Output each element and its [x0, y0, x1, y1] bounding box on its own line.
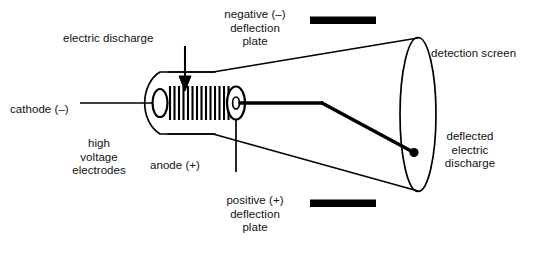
diagram-canvas: electric discharge negative (–) deflecti… — [0, 0, 548, 254]
negative-deflection-plate-bar — [310, 17, 376, 25]
beam-impact-spot — [409, 148, 418, 157]
label-electric-discharge: electric discharge — [63, 32, 153, 46]
electric-discharge-arrow — [179, 46, 191, 91]
cathode-electrode — [153, 89, 168, 117]
electron-beam-path — [240, 103, 413, 152]
discharge-stripes — [170, 86, 229, 120]
label-deflected-electric-discharge: deflected electric discharge — [428, 130, 512, 171]
cone-bottom-wall — [168, 134, 418, 191]
positive-deflection-plate-bar — [310, 200, 376, 208]
label-positive-deflection-plate: positive (+) deflection plate — [203, 194, 307, 235]
label-high-voltage-electrodes: high voltage electrodes — [49, 137, 149, 178]
label-anode: anode (+) — [150, 159, 200, 173]
label-detection-screen: detection screen — [431, 47, 516, 61]
label-negative-deflection-plate: negative (–) deflection plate — [203, 8, 307, 49]
label-cathode: cathode (–) — [10, 103, 69, 117]
